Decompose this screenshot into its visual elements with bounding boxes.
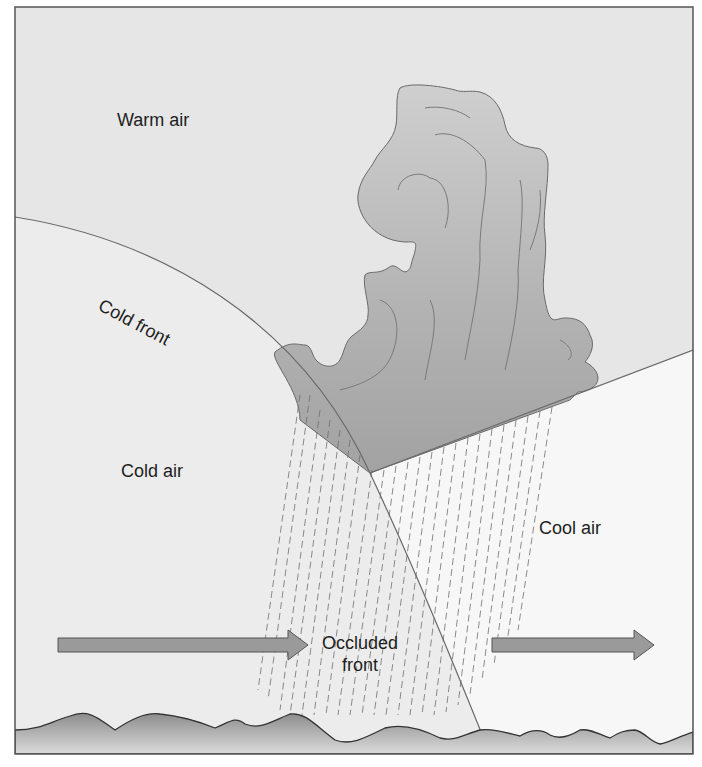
occluded-front-label: Occluded front	[322, 632, 398, 676]
warm-air-label: Warm air	[117, 111, 189, 129]
cold-air-label: Cold air	[121, 462, 183, 480]
cool-air-label: Cool air	[539, 519, 601, 537]
occluded-front-label-line1: Occluded	[322, 632, 398, 654]
occluded-front-label-line2: front	[322, 654, 398, 676]
